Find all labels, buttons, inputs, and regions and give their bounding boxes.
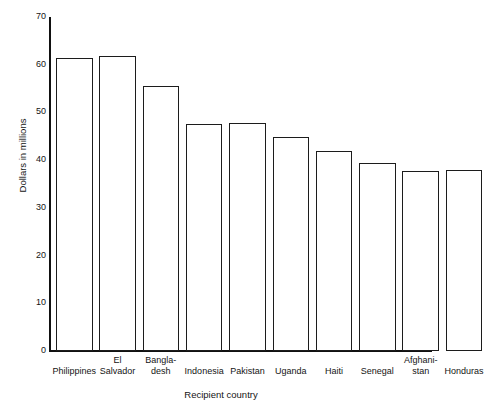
bar <box>56 58 93 351</box>
x-axis-category-label-line: Afghani- <box>392 355 450 366</box>
y-axis-title: Dollars in millions <box>17 96 28 216</box>
bar <box>229 123 266 351</box>
y-axis-tick-label: 0 <box>20 346 46 355</box>
y-axis-tick-label: 20 <box>20 251 46 260</box>
y-axis-line <box>49 17 51 352</box>
x-axis-title: Recipient country <box>0 389 442 400</box>
bar <box>446 170 483 351</box>
y-axis-tick-label: 10 <box>20 298 46 307</box>
bar <box>316 151 353 351</box>
bar <box>402 171 439 351</box>
x-axis-category-label: Honduras <box>435 366 488 377</box>
bar <box>186 124 223 351</box>
y-axis-tick-label: 60 <box>20 60 46 69</box>
bar <box>273 137 310 351</box>
bar <box>99 56 136 351</box>
bar <box>143 86 180 351</box>
bar <box>359 163 396 351</box>
x-axis-category-label-line: Bangla- <box>132 355 190 366</box>
y-axis-tick-label: 70 <box>20 12 46 21</box>
x-axis-category-label-line: Honduras <box>435 366 488 377</box>
